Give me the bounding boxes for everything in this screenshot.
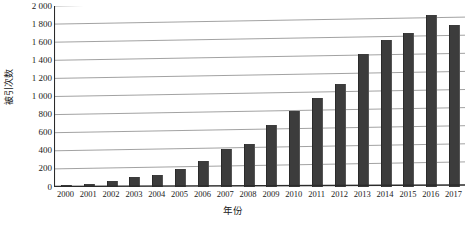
y-tick-label: 400 bbox=[14, 146, 52, 155]
y-tick-label: 0 bbox=[14, 183, 52, 192]
y-axis-tick-labels: 02004006008001 0001 2001 4001 6001 8002 … bbox=[14, 0, 52, 225]
axis-lines bbox=[54, 6, 465, 187]
y-axis-title: 被引次数 bbox=[2, 57, 15, 117]
x-axis-title: 年份 bbox=[0, 203, 465, 217]
y-tick-label: 1 200 bbox=[14, 74, 52, 83]
x-axis-line bbox=[54, 185, 465, 187]
y-tick-label: 2 000 bbox=[14, 2, 52, 11]
y-tick-label: 1 000 bbox=[14, 92, 52, 101]
y-tick-label: 800 bbox=[14, 110, 52, 119]
plot-area bbox=[54, 6, 465, 187]
y-tick-label: 1 400 bbox=[14, 56, 52, 65]
citations-by-year-bar-chart: 被引次数 02004006008001 0001 2001 4001 6001 … bbox=[0, 0, 465, 225]
y-tick-label: 1 600 bbox=[14, 38, 52, 47]
x-tick-label: 2017 bbox=[441, 189, 465, 200]
x-axis-tick-labels: 2000200120022003200420052006200720082009… bbox=[54, 189, 465, 203]
y-tick-label: 600 bbox=[14, 128, 52, 137]
y-tick-label: 200 bbox=[14, 164, 52, 173]
y-tick-label: 1 800 bbox=[14, 20, 52, 29]
